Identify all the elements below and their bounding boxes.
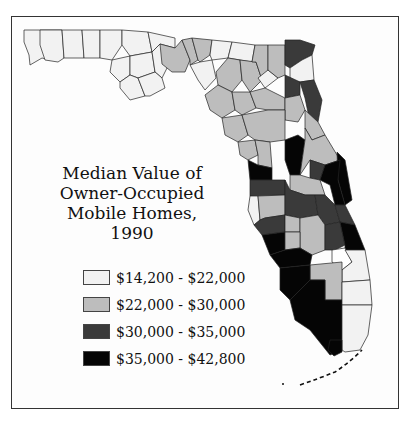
legend-label: $22,000 - $30,000: [116, 297, 245, 313]
county-highlands: [300, 215, 325, 255]
map-legend: $14,200 - $22,000 $22,000 - $30,000 $30,…: [83, 264, 245, 372]
county-hardee: [285, 215, 300, 232]
title-line-4: 1990: [52, 223, 212, 243]
county-putnam: [285, 95, 305, 122]
county-desoto: [285, 232, 300, 250]
dry-tortugas: [282, 383, 284, 385]
legend-label: $14,200 - $22,000: [116, 270, 245, 286]
legend-label: $30,000 - $35,000: [116, 324, 245, 340]
legend-item-class-2: $22,000 - $30,000: [83, 291, 245, 318]
legend-swatch-class-3: [83, 324, 110, 339]
county-panhandle-6: [122, 30, 152, 56]
florida-keys: [300, 350, 362, 385]
legend-item-class-4: $35,000 - $42,800: [83, 345, 245, 372]
county-panhandle-4: [82, 30, 100, 58]
county-panhandle-5: [100, 30, 122, 60]
title-line-2: Owner-Occupied: [52, 183, 212, 203]
map-title: Median Value of Owner-Occupied Mobile Ho…: [52, 163, 212, 243]
title-line-1: Median Value of: [52, 163, 212, 183]
county-panhandle-3: [62, 30, 84, 58]
county-marion: [242, 110, 285, 142]
county-sumter: [255, 140, 272, 168]
legend-label: $35,000 - $42,800: [116, 351, 245, 367]
county-big-bend-6: [190, 60, 216, 90]
title-line-3: Mobile Homes,: [52, 203, 212, 223]
legend-item-class-3: $30,000 - $35,000: [83, 318, 245, 345]
county-central-3: [250, 88, 285, 110]
legend-swatch-class-2: [83, 297, 110, 312]
legend-item-class-1: $14,200 - $22,000: [83, 264, 245, 291]
county-broward: [342, 280, 372, 305]
county-miami-dade: [342, 305, 372, 352]
county-pasco: [250, 180, 285, 196]
legend-swatch-class-4: [83, 351, 110, 366]
legend-swatch-class-1: [83, 270, 110, 285]
county-citrus: [238, 140, 258, 160]
